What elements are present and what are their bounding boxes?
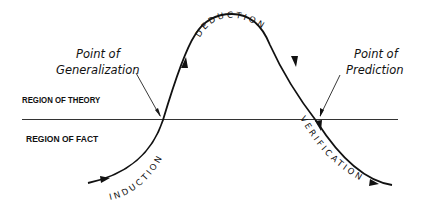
generalization-pointer [136, 73, 160, 116]
region-of-theory-label: REGION OF THEORY [22, 96, 101, 105]
scientific-method-diagram: Point of Generalization Point of Predict… [0, 0, 423, 204]
stage-deduction-label: DEDUCTION [193, 10, 268, 39]
region-of-fact-label: REGION OF FACT [26, 134, 99, 144]
reasoning-cycle-curve [88, 14, 392, 185]
arrow-deduction-descent-icon [291, 56, 298, 67]
stage-verification-label: VERIFICATION [298, 114, 366, 183]
point-of-prediction-line1: Point of [354, 47, 400, 61]
stage-induction-label: INDUCTION [108, 152, 165, 202]
point-of-prediction-line2: Prediction [346, 63, 404, 77]
point-of-generalization-line1: Point of [76, 47, 122, 61]
point-of-generalization-line2: Generalization [56, 63, 140, 77]
